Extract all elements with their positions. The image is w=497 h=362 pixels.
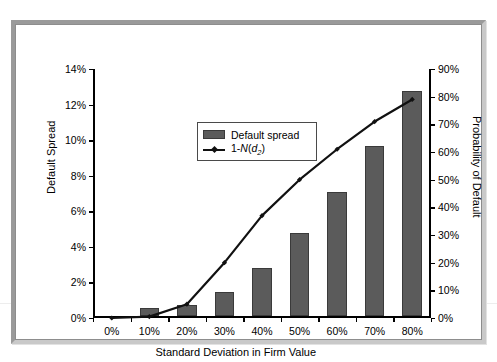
right-tick: [431, 69, 435, 70]
chart-figure-frame: Default Spread Probability of Default St…: [11, 20, 486, 344]
left-tick: [89, 176, 93, 177]
x-tick-label: 80%: [402, 326, 423, 337]
x-tick: [168, 318, 169, 322]
left-tick-label: 6%: [71, 206, 86, 217]
left-tick: [89, 69, 93, 70]
x-axis-title: Standard Deviation in Firm Value: [156, 346, 317, 358]
right-axis-line: [429, 69, 431, 318]
x-tick-label: 0%: [104, 326, 119, 337]
left-tick: [89, 105, 93, 106]
left-tick: [89, 140, 93, 141]
left-tick-label: 0%: [71, 313, 86, 324]
left-axis-line: [93, 69, 95, 318]
bar: [402, 91, 422, 317]
y-axis-title-right: Probability of Default: [471, 116, 483, 218]
left-tick-label: 14%: [65, 64, 86, 75]
bar: [327, 192, 347, 317]
right-tick-label: 0%: [438, 313, 453, 324]
x-tick: [243, 318, 244, 322]
x-tick: [431, 318, 432, 322]
x-tick: [356, 318, 357, 322]
right-tick-label: 60%: [438, 147, 459, 158]
bar: [365, 146, 385, 317]
x-tick-label: 30%: [214, 326, 235, 337]
left-tick-label: 12%: [65, 99, 86, 110]
left-tick: [89, 247, 93, 248]
bar: [215, 292, 235, 317]
right-tick: [431, 124, 435, 125]
right-tick: [431, 263, 435, 264]
left-tick-label: 10%: [65, 135, 86, 146]
right-tick: [431, 180, 435, 181]
right-tick: [431, 235, 435, 236]
right-tick: [431, 97, 435, 98]
left-tick-label: 4%: [71, 242, 86, 253]
legend-label-1-minus-n-d2: 1-N(d2): [231, 142, 265, 157]
x-tick: [281, 318, 282, 322]
bottom-axis-line: [93, 316, 431, 318]
right-tick-label: 70%: [438, 119, 459, 130]
y-axis-title-left: Default Spread: [45, 121, 57, 194]
x-tick: [318, 318, 319, 322]
right-tick-label: 40%: [438, 202, 459, 213]
left-tick-label: 2%: [71, 277, 86, 288]
x-tick-label: 20%: [176, 326, 197, 337]
chart-legend: Default spread 1-N(d2): [197, 122, 317, 161]
right-tick: [431, 152, 435, 153]
bar: [177, 305, 197, 317]
x-tick: [93, 318, 94, 322]
x-tick: [393, 318, 394, 322]
x-tick-label: 60%: [327, 326, 348, 337]
right-tick: [431, 290, 435, 291]
x-tick: [206, 318, 207, 322]
legend-bar-swatch-icon: [203, 130, 225, 139]
right-tick-label: 30%: [438, 230, 459, 241]
legend-item-1-minus-n-d2: 1-N(d2): [203, 142, 311, 157]
bar: [252, 268, 272, 317]
x-tick-label: 10%: [139, 326, 160, 337]
legend-line-swatch-icon: [203, 145, 225, 154]
x-tick: [131, 318, 132, 322]
legend-item-default-spread: Default spread: [203, 127, 311, 142]
left-tick: [89, 282, 93, 283]
bar: [140, 308, 160, 316]
x-tick-label: 50%: [289, 326, 310, 337]
plot-area: 0%2%4%6%8%10%12%14% 0%10%20%30%40%50%60%…: [93, 69, 431, 318]
right-tick-label: 10%: [438, 285, 459, 296]
right-tick-label: 80%: [438, 91, 459, 102]
bar: [290, 233, 310, 317]
left-tick: [89, 211, 93, 212]
right-tick-label: 90%: [438, 64, 459, 75]
right-tick-label: 20%: [438, 257, 459, 268]
legend-label-default-spread: Default spread: [231, 129, 299, 141]
right-tick: [431, 207, 435, 208]
x-tick-label: 40%: [251, 326, 272, 337]
x-tick-label: 70%: [364, 326, 385, 337]
right-tick-label: 50%: [438, 174, 459, 185]
left-tick-label: 8%: [71, 170, 86, 181]
